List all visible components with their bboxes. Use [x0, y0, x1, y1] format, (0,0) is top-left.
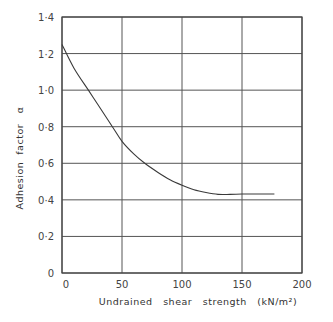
y-tick-label: 0·6 — [38, 158, 54, 169]
x-tick-label: 100 — [172, 279, 191, 290]
adhesion-curve — [62, 44, 274, 194]
y-axis-label: Adhesion factor α — [14, 107, 25, 210]
grid-lines — [62, 17, 302, 273]
x-axis-ticks: 050100150200 — [63, 279, 312, 290]
y-tick-label: 0·2 — [38, 231, 54, 242]
y-axis-ticks: 00·20·40·60·81·01·21·4 — [38, 12, 54, 279]
y-tick-label: 0 — [48, 268, 54, 279]
x-tick-label: 200 — [292, 279, 311, 290]
x-tick-label: 150 — [232, 279, 251, 290]
y-tick-label: 1·2 — [38, 49, 54, 60]
x-tick-label: 50 — [116, 279, 129, 290]
x-tick-label: 0 — [63, 279, 69, 290]
y-tick-label: 1·0 — [38, 85, 54, 96]
x-axis-label: Undrained shear strength (kN/m²) — [99, 296, 297, 307]
y-tick-label: 1·4 — [38, 12, 54, 23]
y-tick-label: 0·4 — [38, 195, 54, 206]
adhesion-factor-chart: 00·20·40·60·81·01·21·4 050100150200 Undr… — [0, 0, 333, 322]
y-tick-label: 0·8 — [38, 122, 54, 133]
